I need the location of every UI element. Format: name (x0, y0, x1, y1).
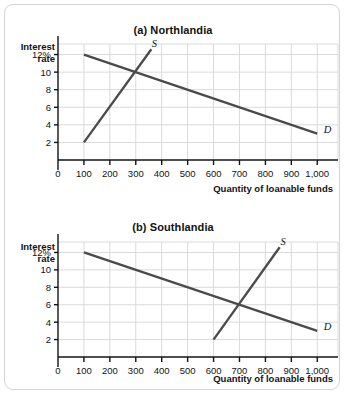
y-tick-label: 4 (46, 119, 51, 130)
x-tick-label: 1,000 (305, 365, 329, 376)
x-tick-label: 0 (55, 168, 60, 179)
plot-area-northlandia: 24681012%01002003004005006007008009001,0… (5, 5, 341, 201)
x-tick-label: 100 (76, 365, 92, 376)
x-tick-label: 800 (257, 168, 273, 179)
y-tick-label: 4 (46, 317, 51, 328)
chart-panel-southlandia: (b) Southlandia Interest rate Quantity o… (5, 201, 341, 391)
y-tick-label: 2 (46, 334, 51, 345)
curve-label-s: S (280, 236, 286, 247)
plot-area-southlandia: 24681012%01002003004005006007008009001,0… (5, 201, 341, 391)
y-tick-label: 8 (46, 84, 51, 95)
y-tick-label: 10 (40, 67, 51, 78)
chart-panel-northlandia: (a) Northlandia Interest rate Quantity o… (5, 5, 341, 201)
x-tick-label: 1,000 (305, 168, 329, 179)
x-tick-label: 800 (257, 365, 273, 376)
x-tick-label: 300 (128, 168, 144, 179)
x-tick-label: 400 (154, 168, 170, 179)
curve-s (214, 247, 280, 339)
y-tick-label: 8 (46, 282, 51, 293)
x-tick-label: 600 (206, 168, 222, 179)
x-tick-label: 500 (180, 168, 196, 179)
x-tick-label: 300 (128, 365, 144, 376)
x-tick-label: 900 (283, 365, 299, 376)
x-tick-label: 0 (55, 365, 60, 376)
x-tick-label: 100 (76, 168, 92, 179)
y-tick-label: 6 (46, 102, 51, 113)
curve-label-d: D (323, 124, 332, 135)
x-tick-label: 200 (102, 168, 118, 179)
y-tick-label: 12% (32, 247, 52, 258)
curve-label-s: S (152, 38, 158, 49)
x-tick-label: 200 (102, 365, 118, 376)
x-tick-label: 600 (206, 365, 222, 376)
y-tick-label: 12% (32, 49, 52, 60)
x-tick-label: 900 (283, 168, 299, 179)
x-tick-label: 700 (232, 168, 248, 179)
x-tick-label: 700 (232, 365, 248, 376)
y-tick-label: 6 (46, 299, 51, 310)
figure-frame: (a) Northlandia Interest rate Quantity o… (4, 4, 340, 390)
y-tick-label: 2 (46, 137, 51, 148)
curve-s (84, 49, 151, 142)
x-tick-label: 400 (154, 365, 170, 376)
x-tick-label: 500 (180, 365, 196, 376)
y-tick-label: 10 (40, 264, 51, 275)
curve-d (84, 252, 317, 330)
curve-label-d: D (323, 321, 332, 332)
